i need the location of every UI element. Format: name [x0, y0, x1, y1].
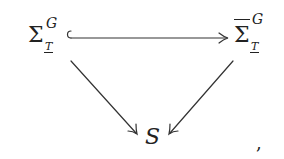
node-sigma-left: Σ G T — [28, 24, 44, 46]
left-diagonal-arrow — [71, 61, 136, 133]
subscript: T — [250, 41, 259, 53]
node-s: S — [145, 126, 160, 148]
trailing-comma: , — [256, 134, 262, 152]
inclusion-hook-icon — [68, 31, 72, 38]
superscript: G — [252, 12, 263, 26]
subscript: T — [44, 41, 53, 53]
sigma-symbol: Σ — [234, 22, 250, 47]
overline — [234, 19, 250, 20]
superscript: G — [46, 16, 57, 30]
node-sigma-bar-right: Σ G T — [234, 24, 250, 46]
right-diagonal-arrow — [170, 61, 233, 133]
sigma-symbol: Σ — [28, 22, 44, 47]
